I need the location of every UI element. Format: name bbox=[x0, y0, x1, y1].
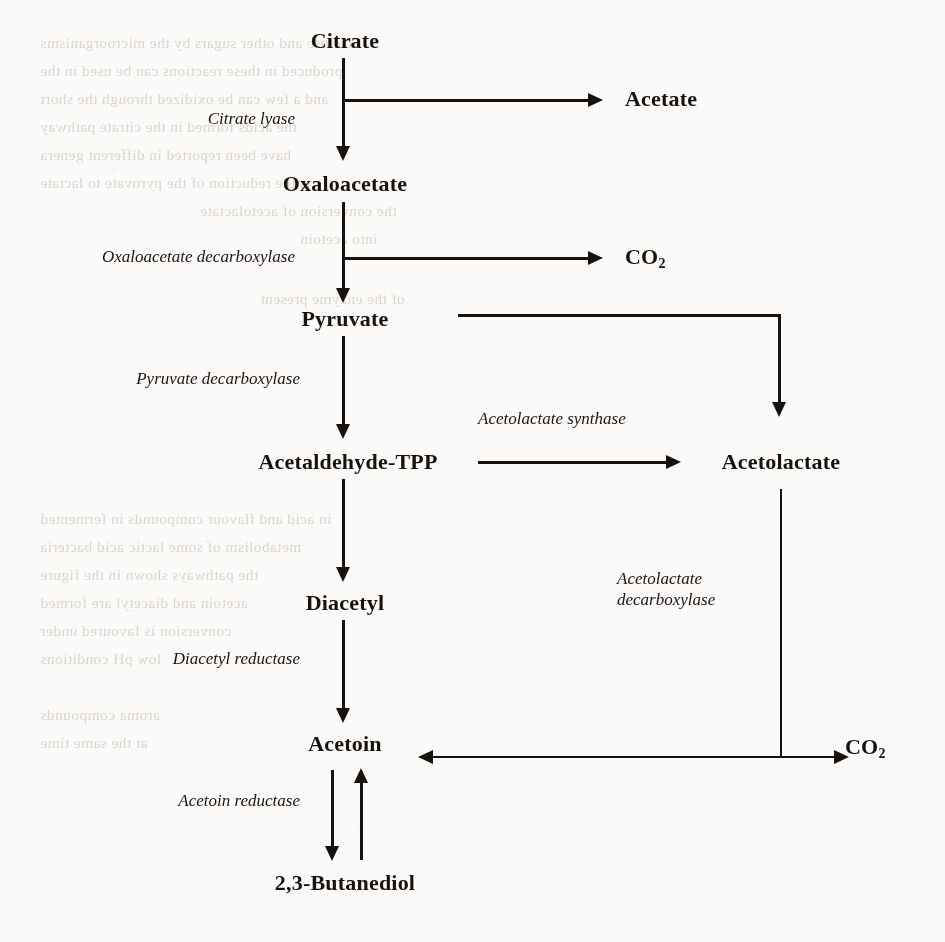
enzyme-diacetyl-reductase: Diacetyl reductase bbox=[173, 648, 300, 669]
arrow-citrate-to-oxaloacetate bbox=[342, 58, 345, 148]
arrow-diacetyl-to-acetoin bbox=[342, 620, 345, 710]
arrow-acetolactate-to-acetoin-and-co2 bbox=[432, 756, 838, 758]
arrow-butanediol-to-acetoin bbox=[360, 782, 363, 860]
species-acetoin: Acetoin bbox=[308, 731, 382, 757]
arrowhead-butanediol-to-acetoin bbox=[354, 768, 368, 783]
bleedthrough-line: the pathways shown in the figure bbox=[40, 566, 258, 584]
bleedthrough-line: the conversion of acetolactate bbox=[200, 202, 397, 220]
arrowhead-diacetyl-to-acetoin bbox=[336, 708, 350, 723]
arrow-citrate-to-acetate bbox=[342, 99, 590, 102]
bleedthrough-line: lactose and other sugars by the microorg… bbox=[40, 34, 353, 52]
enzyme-acetolactate-synthase: Acetolactate synthase bbox=[478, 408, 626, 429]
arrow-pyruvate-to-acetolactate-vertical bbox=[778, 314, 781, 404]
species-butanediol: 2,3-Butanediol bbox=[275, 870, 415, 896]
enzyme-pyruvate-decarboxylase: Pyruvate decarboxylase bbox=[136, 368, 300, 389]
arrowhead-acetoin-to-butanediol bbox=[325, 846, 339, 861]
species-pyruvate: Pyruvate bbox=[301, 306, 388, 332]
bleedthrough-line: acetoin and diacetyl are formed bbox=[40, 594, 248, 612]
arrowhead-pyruvate-to-acetaldehyde-tpp bbox=[336, 424, 350, 439]
bleedthrough-line: is the reduction of the pyruvate to lact… bbox=[40, 174, 311, 192]
arrowhead-acetaldehyde-tpp-to-acetolactate bbox=[666, 455, 681, 469]
bleedthrough-line: aroma compounds bbox=[40, 706, 160, 724]
enzyme-acetoin-reductase: Acetoin reductase bbox=[178, 790, 300, 811]
enzyme-citrate-lyase: Citrate lyase bbox=[208, 108, 295, 129]
arrowhead-acetaldehyde-tpp-to-diacetyl bbox=[336, 567, 350, 582]
arrow-pyruvate-to-acetaldehyde-tpp bbox=[342, 336, 345, 426]
bleedthrough-line: into acetoin bbox=[300, 230, 378, 248]
species-acetaldehyde-tpp: Acetaldehyde-TPP bbox=[258, 449, 437, 475]
arrow-acetaldehyde-tpp-to-acetolactate bbox=[478, 461, 668, 464]
arrowhead-acetolactate-to-co2 bbox=[834, 750, 849, 764]
arrow-acetolactate-descender bbox=[780, 489, 782, 757]
arrow-oxaloacetate-to-co2 bbox=[342, 257, 590, 260]
arrowhead-oxaloacetate-to-co2 bbox=[588, 251, 603, 265]
enzyme-acetolactate-decarboxylase-line2: decarboxylase bbox=[617, 589, 767, 610]
species-citrate: Citrate bbox=[311, 28, 380, 54]
species-acetolactate: Acetolactate bbox=[722, 449, 840, 475]
bleedthrough-line: low pH conditions bbox=[40, 650, 161, 668]
pathway-diagram-page: lactose and other sugars by the microorg… bbox=[0, 0, 945, 942]
enzyme-oxaloacetate-decarboxylase: Oxaloacetate decarboxylase bbox=[102, 246, 295, 267]
bleedthrough-line: at the same time bbox=[40, 734, 148, 752]
enzyme-acetolactate-decarboxylase: Acetolactate decarboxylase bbox=[617, 568, 767, 611]
bleedthrough-line: metabolism of some lactic acid bacteria bbox=[40, 538, 301, 556]
arrowhead-citrate-to-acetate bbox=[588, 93, 603, 107]
arrowhead-oxaloacetate-to-pyruvate bbox=[336, 288, 350, 303]
arrow-acetaldehyde-tpp-to-diacetyl bbox=[342, 479, 345, 569]
species-diacetyl: Diacetyl bbox=[306, 590, 385, 616]
arrow-acetoin-to-butanediol bbox=[331, 770, 334, 848]
arrow-pyruvate-to-acetolactate-horizontal bbox=[458, 314, 781, 317]
arrowhead-pyruvate-to-acetolactate bbox=[772, 402, 786, 417]
arrowhead-citrate-to-oxaloacetate bbox=[336, 146, 350, 161]
bleedthrough-line: have been reported in different genera bbox=[40, 146, 291, 164]
species-co2-top: CO2 bbox=[625, 244, 666, 272]
bleedthrough-line: and a few can be oxidized through the sh… bbox=[40, 90, 328, 108]
species-acetate: Acetate bbox=[625, 86, 697, 112]
enzyme-acetolactate-decarboxylase-line1: Acetolactate bbox=[617, 568, 767, 589]
bleedthrough-line: conversion is favoured under bbox=[40, 622, 232, 640]
arrow-oxaloacetate-to-pyruvate bbox=[342, 202, 345, 290]
species-co2-bottom: CO2 bbox=[845, 734, 886, 762]
bleedthrough-line: produced in these reactions can be used … bbox=[40, 62, 342, 80]
arrowhead-acetolactate-to-acetoin bbox=[418, 750, 433, 764]
species-oxaloacetate: Oxaloacetate bbox=[283, 171, 408, 197]
bleedthrough-line: in acid and flavour compounds in ferment… bbox=[40, 510, 331, 528]
